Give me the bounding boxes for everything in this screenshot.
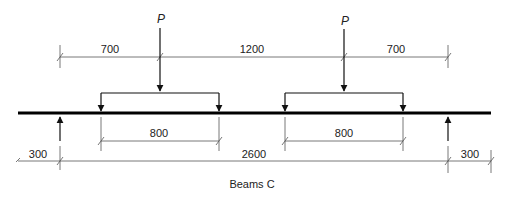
- bottom-dim-label-left: 300: [29, 148, 47, 160]
- bottom-dimension-chain: 300 2600 300: [16, 146, 494, 173]
- spreader-dimension-left: 800: [98, 117, 222, 151]
- spreader-beam-left: [101, 93, 219, 111]
- diagram-caption: Beams C: [229, 178, 274, 190]
- spreader-dimension-right: 800: [282, 117, 406, 151]
- point-load-left: P: [157, 12, 165, 91]
- load-label-left: P: [157, 12, 165, 26]
- spreader-dim-label-left: 800: [150, 127, 168, 139]
- bottom-dim-label-right: 300: [461, 148, 479, 160]
- top-dimension-chain: 700 1200 700: [57, 43, 451, 68]
- top-dim-label-center: 1200: [240, 43, 264, 55]
- load-label-right: P: [341, 14, 349, 28]
- top-dim-label-left: 700: [101, 43, 119, 55]
- top-dim-label-right: 700: [387, 43, 405, 55]
- spreader-beam-right: [285, 93, 403, 111]
- spreader-dim-label-right: 800: [335, 127, 353, 139]
- point-load-right: P: [341, 14, 349, 91]
- bottom-dim-label-center: 2600: [242, 148, 266, 160]
- beam-diagram: 700 1200 700 P P 800 800: [0, 0, 506, 200]
